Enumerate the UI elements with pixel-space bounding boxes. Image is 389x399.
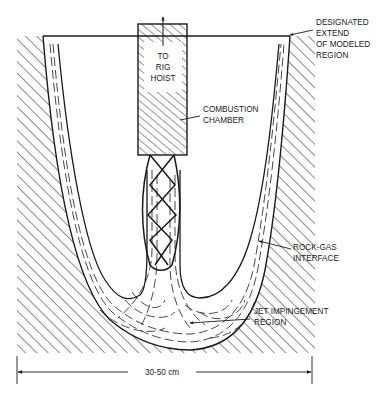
chamber-text-line-1: TO [157,52,168,61]
jet-label-line-1: JET IMPINGEMENT [254,307,328,316]
combustion-label-line-2: CHAMBER [203,116,244,125]
rock-gas-label-line-2: INTERFACE [293,254,339,263]
jet-plume [143,155,180,270]
combustion-chamber-callout: COMBUSTION CHAMBER [180,105,259,125]
inner-flow-boundary-right [180,44,279,298]
designated-label-line-2: EXTEND [316,29,349,38]
designated-label-line-1: DESIGNATED [316,18,369,27]
width-dimension: 30-50 cm [17,356,312,384]
chamber-text-line-3: HOIST [150,74,175,83]
jet-label-line-2: REGION [254,318,286,327]
dimension-label: 30-50 cm [145,368,179,377]
combustion-label-line-1: COMBUSTION [203,105,259,114]
rock-gas-label-line-1: ROCK-GAS [293,243,337,252]
chamber-text-line-2: RIG [156,63,171,72]
designated-label-line-3: OF MODELED [316,40,370,49]
designated-label-line-4: REGION [316,51,348,60]
borehole-diagram: TO RIG HOIST DESIGNATED EXTEND OF MODELE… [0,0,389,399]
